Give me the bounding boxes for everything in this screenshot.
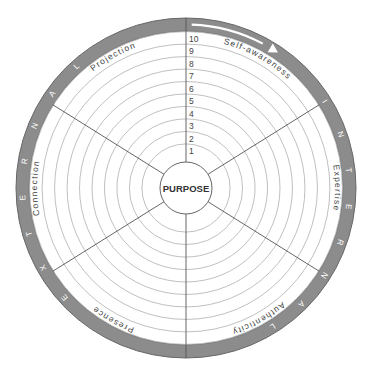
scale-number: 5: [189, 96, 194, 106]
scale-number: 7: [189, 71, 194, 81]
band-letter: E: [344, 204, 354, 210]
scale-number: 9: [189, 46, 194, 56]
scale-number: 6: [189, 84, 194, 94]
scale-number: 1: [189, 146, 194, 156]
scale-number: 2: [189, 134, 194, 144]
purpose-wheel-diagram: 12345678910 Self-awarenessExpertiseAuthe…: [0, 0, 371, 386]
scale-number: 10: [189, 34, 199, 44]
scale-number: 8: [189, 59, 194, 69]
scale-number: 3: [189, 121, 194, 131]
center-circle: PURPOSE: [160, 162, 212, 214]
band-letter: E: [18, 195, 27, 201]
center-label: PURPOSE: [163, 183, 209, 194]
segment-label: Expertise: [331, 164, 343, 212]
scale-number: 4: [189, 109, 194, 119]
